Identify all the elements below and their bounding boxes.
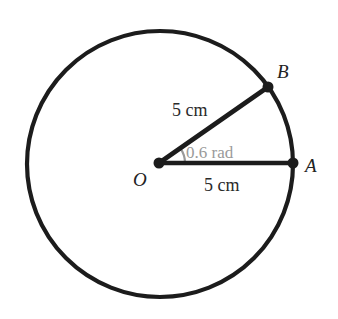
- point-label-o: O: [133, 169, 147, 190]
- radius-ob-label: 5 cm: [172, 100, 208, 120]
- point-label-b: B: [277, 61, 289, 82]
- point-o-dot: [154, 158, 165, 169]
- geometry-canvas: O A B 5 cm 5 cm 0.6 rad: [0, 0, 338, 319]
- geometry-figure: O A B 5 cm 5 cm 0.6 rad: [0, 0, 338, 319]
- point-b-dot: [263, 82, 274, 93]
- angle-label: 0.6 rad: [186, 143, 234, 162]
- point-label-a: A: [303, 155, 317, 176]
- radius-oa-label: 5 cm: [204, 175, 240, 195]
- point-a-dot: [288, 158, 299, 169]
